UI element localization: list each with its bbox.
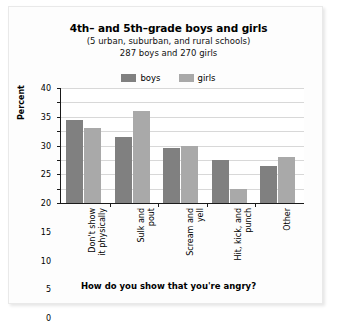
x-label-line: Sulk and [137,208,147,266]
y-tick-label: 25 [41,170,51,179]
plot-wrapper: Percent 0510152025303540 Don't showit ph… [0,0,337,322]
bars-layer [61,88,304,203]
y-tick-label: 30 [41,141,51,150]
x-label-line: Other [283,208,293,266]
bar-boys [66,120,83,203]
bar-boys [115,137,132,203]
x-tick-mark [158,203,159,207]
chart-page: 4th– and 5th–grade boys and girls (5 urb… [0,0,337,322]
x-tick-mark [255,203,256,207]
x-label-line: punch [244,208,254,266]
x-label-line: it physically [98,208,108,266]
x-label-line: yell [195,208,205,266]
bar-girls [230,189,247,203]
x-tick-mark [207,203,208,207]
x-label-line: Hit, kick, and [234,208,244,266]
bar-group [110,88,159,203]
x-axis-label: Other [283,208,293,266]
bar-girls [181,146,198,204]
y-tick-label: 20 [41,199,51,208]
y-tick-mark: 0 [57,203,61,204]
x-label-line: Scream and [186,208,196,266]
bar-group [207,88,256,203]
bar-group [61,88,110,203]
bar-boys [212,160,229,203]
y-tick-label: 0 [46,314,51,322]
bar-group [255,88,304,203]
x-tick-mark [110,203,111,207]
y-tick-label: 35 [41,112,51,121]
bar-girls [133,111,150,203]
x-axis-label: Don't showit physically [88,208,107,266]
x-axis-label: Scream andyell [186,208,205,266]
y-tick-label: 15 [41,227,51,236]
x-axis-caption: How do you show that you're angry? [0,281,337,291]
bar-boys [163,148,180,203]
y-tick-label: 10 [41,256,51,265]
x-label-line: Don't show [88,208,98,266]
bar-girls [84,128,101,203]
bar-group [158,88,207,203]
x-label-line: pout [146,208,156,266]
plot-area: 0510152025303540 [60,88,304,204]
x-axis-label: Sulk andpout [137,208,156,266]
x-axis-label: Hit, kick, andpunch [234,208,253,266]
y-tick-label: 40 [41,84,51,93]
x-axis-labels: Don't showit physicallySulk andpoutScrea… [60,208,303,268]
y-axis-title: Percent [17,60,26,120]
bar-girls [278,157,295,203]
bar-boys [260,166,277,203]
